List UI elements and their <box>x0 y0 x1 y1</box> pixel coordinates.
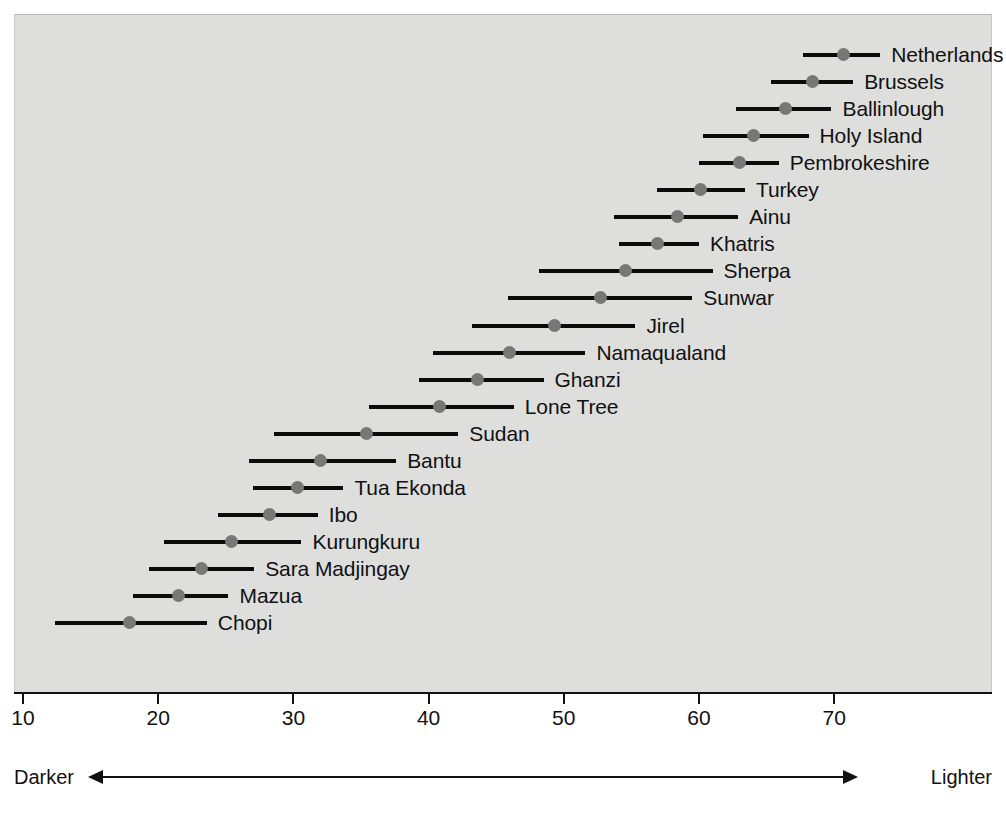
data-row: Bantu <box>15 448 991 474</box>
mean-marker <box>694 183 707 196</box>
mean-marker <box>291 481 304 494</box>
series-label: Turkey <box>756 177 819 203</box>
x-axis: 10203040506070 <box>14 692 992 752</box>
series-label: Ghanzi <box>555 367 621 393</box>
x-axis-tick-label: 40 <box>417 706 440 730</box>
direction-right-label: Lighter <box>931 765 992 789</box>
mean-marker <box>806 75 819 88</box>
mean-marker <box>172 589 185 602</box>
x-axis-tick-label: 30 <box>282 706 305 730</box>
series-label: Sunwar <box>703 285 774 311</box>
mean-marker <box>548 319 561 332</box>
direction-left-label: Darker <box>14 765 74 789</box>
x-axis-tick <box>698 692 700 704</box>
mean-marker <box>123 616 136 629</box>
series-label: Kurungkuru <box>313 529 421 555</box>
data-row: Kurungkuru <box>15 529 991 555</box>
series-label: Sherpa <box>724 258 791 284</box>
data-row: Pembrokeshire <box>15 150 991 176</box>
mean-marker <box>360 427 373 440</box>
series-label: Khatris <box>710 231 775 257</box>
x-axis-tick <box>157 692 159 704</box>
direction-legend: Darker Lighter <box>14 765 992 799</box>
data-row: Holy Island <box>15 123 991 149</box>
data-row: Ghanzi <box>15 367 991 393</box>
x-axis-tick-label: 70 <box>823 706 846 730</box>
series-label: Holy Island <box>820 123 923 149</box>
x-axis-tick <box>428 692 430 704</box>
mean-marker <box>779 102 792 115</box>
mean-marker <box>747 129 760 142</box>
x-axis-tick-label: 60 <box>687 706 710 730</box>
data-row: Namaqualand <box>15 340 991 366</box>
series-label: Pembrokeshire <box>790 150 930 176</box>
mean-marker <box>314 454 327 467</box>
mean-marker <box>433 400 446 413</box>
x-axis-tick <box>563 692 565 704</box>
plot-panel: NetherlandsBrusselsBallinloughHoly Islan… <box>14 14 992 692</box>
series-label: Bantu <box>407 448 461 474</box>
x-axis-tick-label: 10 <box>11 706 34 730</box>
series-label: Brussels <box>864 69 944 95</box>
data-row: Khatris <box>15 231 991 257</box>
series-label: Namaqualand <box>596 340 726 366</box>
series-label: Ballinlough <box>842 96 944 122</box>
data-row: Netherlands <box>15 42 991 68</box>
series-label: Chopi <box>218 610 272 636</box>
direction-arrow <box>102 776 844 778</box>
data-row: Ibo <box>15 502 991 528</box>
series-label: Mazua <box>240 583 303 609</box>
data-row: Sara Madjingay <box>15 556 991 582</box>
data-row: Tua Ekonda <box>15 475 991 501</box>
data-row: Sherpa <box>15 258 991 284</box>
x-axis-line <box>14 692 992 694</box>
data-row: Chopi <box>15 610 991 636</box>
mean-marker <box>671 210 684 223</box>
data-row: Sunwar <box>15 285 991 311</box>
series-label: Jirel <box>646 313 684 339</box>
data-row: Ballinlough <box>15 96 991 122</box>
arrow-right-icon <box>843 770 858 784</box>
arrow-left-icon <box>88 770 103 784</box>
mean-marker <box>503 346 516 359</box>
mean-marker <box>195 562 208 575</box>
x-axis-tick-label: 20 <box>147 706 170 730</box>
series-label: Sara Madjingay <box>265 556 410 582</box>
data-row: Lone Tree <box>15 394 991 420</box>
x-axis-tick <box>833 692 835 704</box>
data-row: Mazua <box>15 583 991 609</box>
x-axis-tick <box>292 692 294 704</box>
mean-marker <box>837 48 850 61</box>
mean-marker <box>619 264 632 277</box>
data-row: Sudan <box>15 421 991 447</box>
mean-marker <box>651 237 664 250</box>
series-label: Ibo <box>329 502 358 528</box>
series-label: Tua Ekonda <box>354 475 465 501</box>
data-row: Jirel <box>15 313 991 339</box>
series-label: Netherlands <box>891 42 1003 68</box>
mean-marker <box>471 373 484 386</box>
chart-page: NetherlandsBrusselsBallinloughHoly Islan… <box>0 0 1006 815</box>
x-axis-tick <box>22 692 24 704</box>
data-row: Turkey <box>15 177 991 203</box>
mean-marker <box>263 508 276 521</box>
series-label: Lone Tree <box>525 394 619 420</box>
data-row: Ainu <box>15 204 991 230</box>
x-axis-tick-label: 50 <box>552 706 575 730</box>
plot-area: NetherlandsBrusselsBallinloughHoly Islan… <box>15 15 991 692</box>
mean-marker <box>225 535 238 548</box>
series-label: Ainu <box>749 204 791 230</box>
series-label: Sudan <box>469 421 529 447</box>
mean-marker <box>733 156 746 169</box>
mean-marker <box>594 291 607 304</box>
data-row: Brussels <box>15 69 991 95</box>
